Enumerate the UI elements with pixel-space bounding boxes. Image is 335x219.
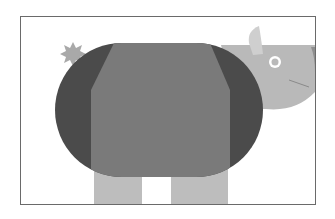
rhino-body-center <box>91 43 230 187</box>
picture-frame <box>20 16 316 205</box>
rhino-illustration <box>21 17 315 204</box>
illustration-canvas <box>0 0 335 219</box>
